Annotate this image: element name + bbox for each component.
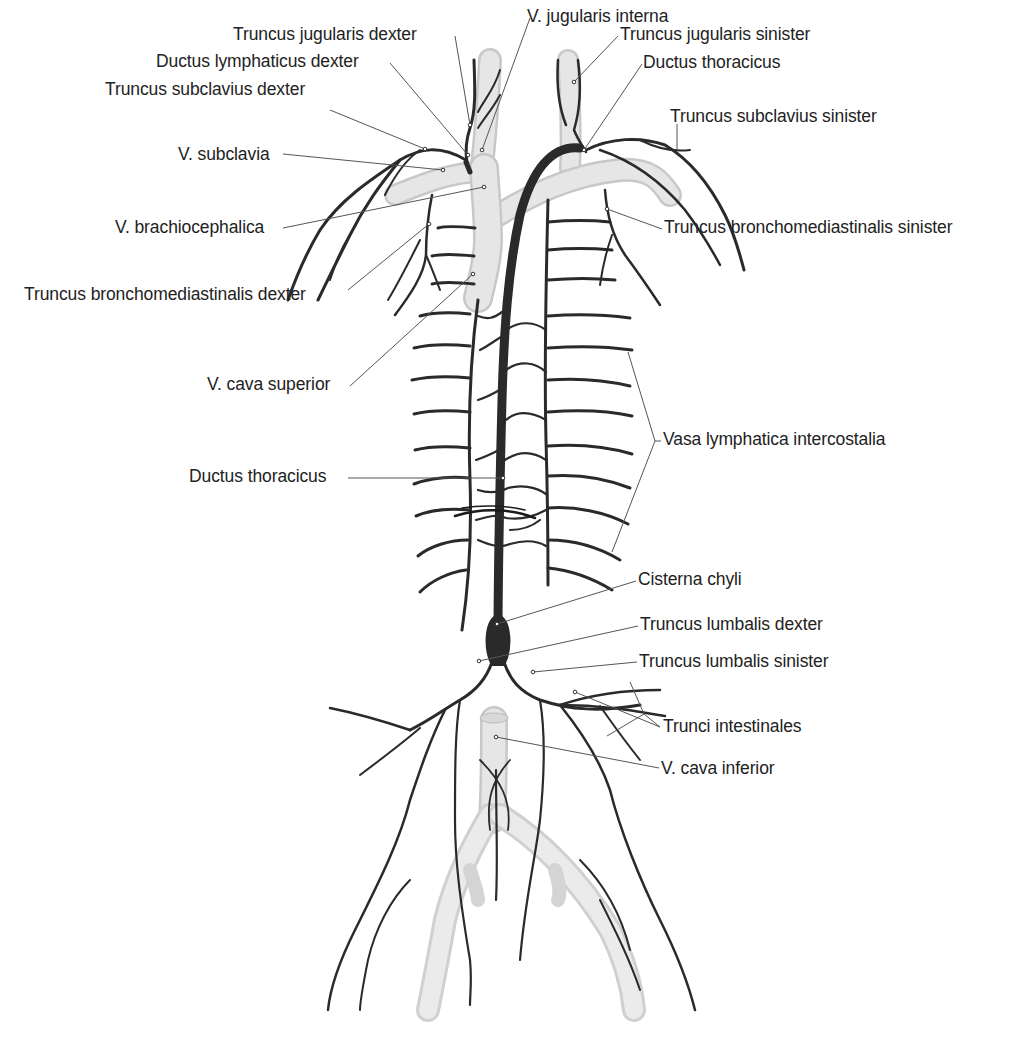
label-truncus-lumbalis-sinister: Truncus lumbalis sinister bbox=[639, 651, 828, 671]
lymphatic-system-diagram: V. jugularis interna Truncus jugularis d… bbox=[0, 0, 1011, 1056]
label-v-brachiocephalica: V. brachiocephalica bbox=[115, 217, 264, 237]
label-vasa-lymphatica-intercostalia: Vasa lymphatica intercostalia bbox=[663, 429, 885, 449]
label-v-jugularis-interna: V. jugularis interna bbox=[527, 6, 668, 26]
label-truncus-lumbalis-dexter: Truncus lumbalis dexter bbox=[640, 614, 823, 634]
label-v-subclavia: V. subclavia bbox=[178, 144, 270, 164]
label-truncus-subclavius-dexter: Truncus subclavius dexter bbox=[105, 79, 305, 99]
label-ductus-thoracicus: Ductus thoracicus bbox=[189, 466, 326, 486]
lymphatic-illustration bbox=[0, 0, 1011, 1056]
label-truncus-bronchomediastinalis-sinister: Truncus bronchomediastinalis sinister bbox=[664, 217, 952, 237]
label-cisterna-chyli: Cisterna chyli bbox=[638, 569, 742, 589]
label-ductus-lymphaticus-dexter: Ductus lymphaticus dexter bbox=[156, 51, 359, 71]
label-v-cava-inferior: V. cava inferior bbox=[661, 758, 775, 778]
label-truncus-jugularis-sinister: Truncus jugularis sinister bbox=[620, 24, 810, 44]
label-truncus-jugularis-dexter: Truncus jugularis dexter bbox=[233, 24, 417, 44]
label-truncus-subclavius-sinister: Truncus subclavius sinister bbox=[670, 106, 877, 126]
ivc-cut-end bbox=[480, 713, 508, 723]
label-truncus-bronchomediastinalis-dexter: Truncus bronchomediastinalis dexter bbox=[24, 284, 306, 304]
label-v-cava-superior: V. cava superior bbox=[207, 374, 330, 394]
label-ductus-thoracicus-top: Ductus thoracicus bbox=[643, 52, 780, 72]
label-trunci-intestinales: Trunci intestinales bbox=[663, 716, 802, 736]
